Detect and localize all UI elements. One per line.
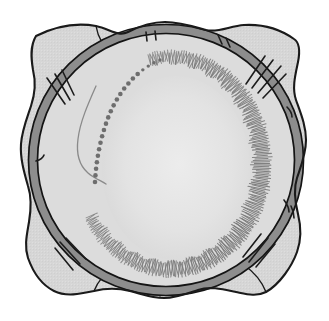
incision-dot: [102, 128, 107, 133]
incision-dot: [111, 103, 116, 108]
incision-dot: [97, 147, 102, 152]
incision-dot: [93, 180, 98, 185]
incision-dot: [147, 64, 150, 67]
incision-dot: [115, 97, 120, 102]
incision-dot: [96, 153, 101, 158]
incision-dot: [158, 58, 161, 61]
incision-dot: [141, 68, 144, 71]
incision-dot: [126, 81, 131, 86]
hatch-stroke: [176, 261, 177, 277]
hatch-stroke: [255, 159, 268, 160]
incision-dot: [135, 72, 140, 77]
illustration-canvas: [0, 0, 329, 321]
incision-dot: [104, 121, 109, 126]
incision-dot: [108, 109, 113, 114]
fold-mark: [155, 31, 156, 40]
incision-dot: [95, 160, 100, 165]
incision-dot: [118, 92, 123, 97]
fold-mark: [146, 32, 147, 41]
incision-dot: [152, 61, 155, 64]
hatch-stroke: [253, 168, 271, 169]
incision-dot: [98, 140, 103, 145]
incision-dot: [106, 115, 111, 120]
incision-dot: [131, 76, 136, 81]
incision-dot: [94, 167, 99, 172]
incision-dot: [100, 134, 105, 139]
inner-core-tissue: [102, 76, 250, 260]
figure-root: Black and white medical line illustratio…: [0, 0, 329, 321]
incision-dot: [93, 173, 98, 178]
incision-dot: [122, 86, 127, 91]
